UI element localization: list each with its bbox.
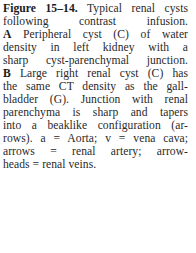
- caption-line-9: parenchyma is sharp and tapers: [3, 106, 188, 119]
- caption-line-7: the same CT density as the gall-: [3, 80, 188, 93]
- panel-b-label: B: [3, 67, 11, 80]
- caption-line-2: following contrast infusion.: [3, 15, 188, 28]
- caption-line-6: B Large right renal cyst (C) has: [3, 67, 188, 80]
- caption-line-11: rows). a = Aorta; v = vena cava;: [3, 132, 188, 145]
- caption-line-8: bladder (G). Junction with renal: [3, 93, 188, 106]
- caption-line-5: sharp cyst-parenchymal junction.: [3, 54, 188, 67]
- figure-label: Figure 15–14.: [3, 2, 78, 15]
- caption-line-13: heads = renal veins.: [3, 158, 188, 171]
- caption-line-10: into a beaklike configuration (ar-: [3, 119, 188, 132]
- caption-line-4: density in left kidney with a: [3, 41, 188, 54]
- figure-caption: Figure 15–14. Typical renal cysts follow…: [3, 2, 188, 171]
- caption-line-3: A Peripheral cyst (C) of water: [3, 28, 188, 41]
- caption-line-12: arrows = renal artery; arrow-: [3, 145, 188, 158]
- caption-line-1: Figure 15–14. Typical renal cysts: [3, 2, 188, 15]
